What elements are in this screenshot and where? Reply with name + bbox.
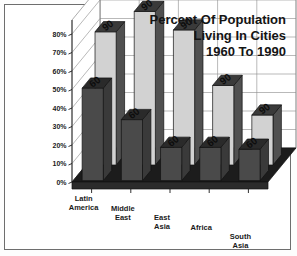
ytick-10	[69, 164, 73, 166]
bar-0-1960-front	[82, 88, 103, 181]
y-axis-label-60: 60%	[52, 68, 67, 75]
y-axis-label-40: 40%	[52, 105, 67, 112]
y-axis-label-20: 20%	[52, 142, 67, 149]
ytick-0	[69, 182, 73, 184]
floor-front	[72, 182, 268, 189]
bar-1-1960-front	[121, 120, 142, 181]
y-axis-label-50: 50%	[52, 86, 67, 93]
y-axis-label-10: 10%	[52, 160, 67, 167]
bar-4-1960-front	[239, 149, 260, 180]
bar-1-1960-side	[143, 109, 151, 180]
category-label-1: Middle	[111, 204, 135, 213]
y-axis-label-70: 70%	[52, 49, 67, 56]
chart-title-line-0: Percent Of Population	[149, 12, 286, 27]
ytick-20	[69, 145, 73, 147]
bar-0-1960-side	[103, 78, 111, 181]
ytick-50	[69, 90, 73, 92]
category-label-0: Latin	[75, 194, 93, 203]
bar-3-1960-front	[200, 147, 221, 180]
category-label-2: Asia	[154, 222, 171, 231]
chart-canvas: 0%10%20%30%40%50%60%70%80%90609060906090…	[0, 0, 297, 256]
category-label-2: East	[154, 213, 170, 222]
category-label-0: America	[69, 203, 99, 212]
ytick-80	[69, 34, 73, 36]
category-label-4: Asia	[232, 241, 249, 250]
ytick-60	[69, 71, 73, 73]
chart-image: 0%10%20%30%40%50%60%70%80%90609060906090…	[0, 0, 297, 256]
bar-chart-svg: 0%10%20%30%40%50%60%70%80%90609060906090…	[0, 0, 297, 256]
chart-title-line-1: Living In Cities	[194, 28, 286, 43]
category-label-1: East	[115, 213, 131, 222]
y-axis-label-30: 30%	[52, 123, 67, 130]
y-axis-label-80: 80%	[52, 31, 67, 38]
ytick-40	[69, 108, 73, 110]
chart-title-line-2: 1960 To 1990	[206, 44, 286, 59]
category-label-3: Africa	[191, 223, 213, 232]
y-axis-label-0: 0%	[56, 179, 67, 186]
bar-2-1960-front	[161, 147, 182, 180]
ytick-70	[69, 53, 73, 55]
ytick-30	[69, 127, 73, 129]
category-label-4: South	[230, 232, 252, 241]
